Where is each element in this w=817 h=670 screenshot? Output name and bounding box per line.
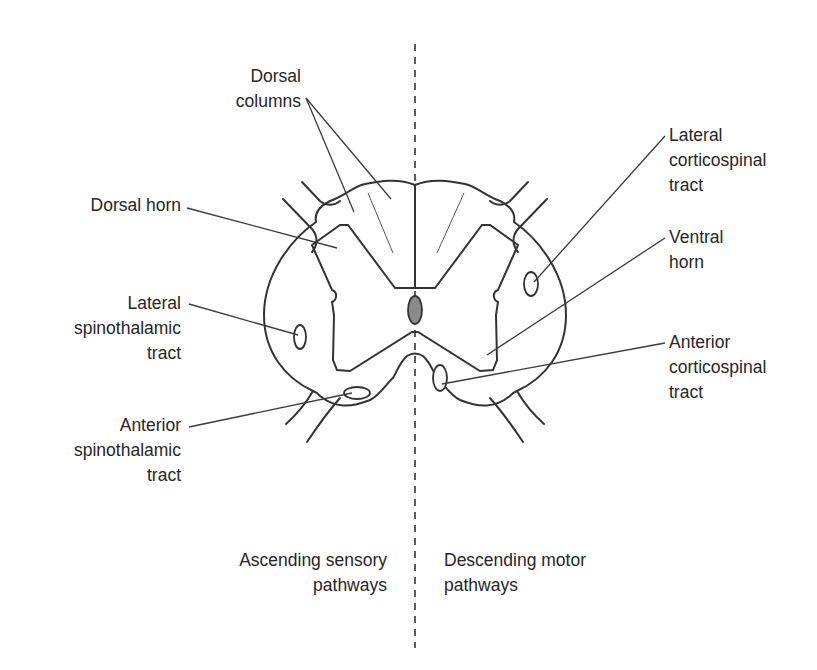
anterior-spinothalamic-tract (344, 387, 370, 399)
label-lateral-corticospinal-line3: tract (669, 173, 766, 198)
label-dorsal-columns-line2: columns (236, 89, 301, 114)
label-lateral-corticospinal: Lateral corticospinal tract (669, 123, 766, 198)
label-anterior-corticospinal-line1: Anterior (669, 330, 766, 355)
label-ascending-line1: Ascending sensory (239, 548, 387, 573)
label-lateral-corticospinal-line1: Lateral (669, 123, 766, 148)
label-descending-motor-pathways: Descending motor pathways (444, 548, 586, 598)
ventral-root-right-inner (490, 398, 523, 442)
label-lateral-spinothalamic-line3: tract (74, 341, 181, 366)
dorsal-root-right-inner (490, 182, 528, 205)
label-lateral-spinothalamic-line1: Lateral (74, 291, 181, 316)
ventral-root-left-outer (286, 391, 313, 424)
leader-anterior-corticospinal (442, 343, 665, 384)
label-anterior-spinothalamic-line2: spinothalamic (74, 438, 181, 463)
label-anterior-spinothalamic-line1: Anterior (74, 413, 181, 438)
label-anterior-corticospinal: Anterior corticospinal tract (669, 330, 766, 405)
lateral-corticospinal-tract (524, 272, 538, 296)
label-ventral-horn-line1: Ventral (669, 225, 723, 250)
leader-lateral-spinothalamic (189, 304, 298, 335)
label-ascending-sensory-pathways: Ascending sensory pathways (239, 548, 387, 598)
label-dorsal-columns-line1: Dorsal (236, 64, 301, 89)
label-anterior-corticospinal-line2: corticospinal (669, 355, 766, 380)
label-anterior-corticospinal-line3: tract (669, 380, 766, 405)
label-lateral-spinothalamic: Lateral spinothalamic tract (74, 291, 181, 366)
ventral-root-right-outer (517, 391, 544, 424)
fasciculus-line-left (368, 193, 393, 253)
label-anterior-spinothalamic: Anterior spinothalamic tract (74, 413, 181, 488)
label-descending-line1: Descending motor (444, 548, 586, 573)
label-ventral-horn-line2: horn (669, 250, 723, 275)
central-canal (408, 296, 422, 324)
label-lateral-corticospinal-line2: corticospinal (669, 148, 766, 173)
leader-dorsal-horn (187, 208, 337, 248)
label-dorsal-columns: Dorsal columns (236, 64, 301, 114)
leader-lateral-corticospinal (534, 136, 665, 282)
lateral-spinothalamic-tract (294, 325, 306, 349)
label-dorsal-horn: Dorsal horn (91, 193, 181, 218)
label-lateral-spinothalamic-line2: spinothalamic (74, 316, 181, 341)
label-anterior-spinothalamic-line3: tract (74, 463, 181, 488)
label-descending-line2: pathways (444, 573, 586, 598)
label-dorsal-horn-line1: Dorsal horn (91, 193, 181, 218)
leader-anterior-spinothalamic (189, 393, 352, 427)
ventral-root-left-inner (307, 398, 340, 442)
fasciculus-line-right (437, 193, 464, 253)
label-ventral-horn: Ventral horn (669, 225, 723, 275)
leader-dorsal-columns-2 (306, 98, 391, 199)
anterior-corticospinal-tract (433, 365, 447, 391)
dorsal-root-left-inner (302, 182, 340, 205)
label-ascending-line2: pathways (239, 573, 387, 598)
